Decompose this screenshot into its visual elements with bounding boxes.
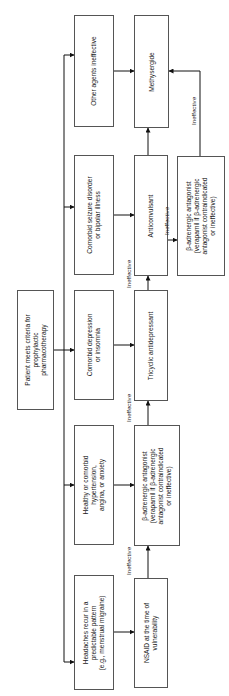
treatment-text: NSAID at the time of vulnerability	[143, 579, 159, 687]
treatment-text: Anticonvulsant	[147, 157, 155, 275]
condition-text: Headaches recur in a predictable pattern…	[82, 576, 106, 689]
condition-text: Comorbid depression or insomnia	[86, 291, 102, 399]
treatment-text: β-adrenergic antagonist (verapamil if β-…	[141, 427, 173, 545]
condition-depression-insomnia: Comorbid depression or insomnia	[74, 290, 114, 400]
condition-text: Comorbid seizure disorder or bipolar ill…	[86, 156, 102, 274]
condition-seizure-bipolar: Comorbid seizure disorder or bipolar ill…	[74, 155, 114, 275]
edge-label-ineffective: Ineffective	[125, 394, 132, 422]
treatment-text: Methysergide	[148, 17, 156, 127]
condition-other-agents: Other agents ineffective	[74, 15, 114, 127]
secondary-beta-blocker: β-adrenergic antagonist (verapamil if β-…	[177, 156, 225, 276]
start-box: Patient meets criteria for prophylactic …	[17, 290, 54, 410]
edge-label-ineffective: Ineffective	[125, 260, 132, 288]
edge-label-ineffective: Ineffective	[190, 97, 197, 125]
edge-label-ineffective: Ineffective	[163, 207, 170, 235]
treatment-beta-blocker: β-adrenergic antagonist (verapamil if β-…	[134, 425, 180, 546]
treatment-methysergide: Methysergide	[134, 15, 169, 128]
condition-text: Other agents ineffective	[90, 16, 98, 126]
start-text: Patient meets criteria for prophylactic …	[24, 291, 48, 409]
secondary-text: β-adrenergic antagonist (verapamil if β-…	[185, 157, 217, 275]
treatment-nsaid: NSAID at the time of vulnerability	[134, 578, 168, 688]
condition-healthy-hypertension: Healthy or comorbid hypertension, angina…	[74, 425, 114, 545]
treatment-tricyclic: Tricyclic antidepressant	[134, 290, 168, 401]
treatment-text: Tricyclic antidepressant	[147, 292, 155, 400]
condition-text: Healthy or comorbid hypertension, angina…	[82, 426, 106, 544]
condition-predictable-headaches: Headaches recur in a predictable pattern…	[74, 575, 114, 690]
edge-label-ineffective: Ineffective	[125, 547, 132, 575]
